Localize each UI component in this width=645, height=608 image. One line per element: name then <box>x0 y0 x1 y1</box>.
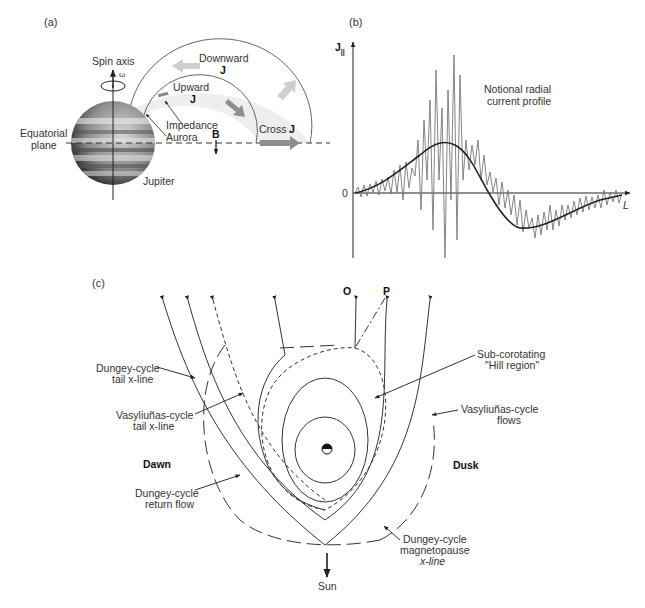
dusk-label: Dusk <box>453 459 479 471</box>
vas-flows-label-2: flows <box>497 414 521 426</box>
upward-label: Upward <box>173 81 209 93</box>
chart-title-line1: Notional radial <box>484 83 551 95</box>
x-axis-label: L <box>623 199 629 211</box>
panel-b: (b) J|| 0 L Notional radial current prof… <box>335 16 630 258</box>
dusk-open-field-line-2 <box>325 300 387 520</box>
o-field-line <box>355 300 356 348</box>
y-axis-label: J|| <box>335 41 345 56</box>
chart-title-line2: current profile <box>487 95 551 107</box>
downward-label: Downward <box>199 52 249 64</box>
cross-label: Cross <box>259 123 286 135</box>
p-label: P <box>383 285 390 297</box>
figure: (a) Spin axis ω Equatorial <box>0 0 645 608</box>
b-field-label: B <box>212 128 220 140</box>
dawn-open-field-line-2 <box>188 300 325 520</box>
panel-c-label: (c) <box>92 277 105 289</box>
downward-j-label: J <box>220 64 226 76</box>
vas-tail-pointer <box>195 393 243 414</box>
downward-current-arrow-icon-2 <box>277 80 296 100</box>
jupiter-label: Jupiter <box>143 175 175 187</box>
dungey-tail-label-2: tail x-line <box>112 373 154 385</box>
downward-current-arrow-icon <box>172 59 200 73</box>
zero-label: 0 <box>342 187 348 199</box>
subcorot-label-2: "Hill region" <box>485 359 539 371</box>
omega-label: ω <box>119 70 125 79</box>
o-label: O <box>343 285 351 297</box>
dawn-label: Dawn <box>143 458 171 470</box>
dungey-mp-label-3: x-line <box>419 555 445 567</box>
spin-axis-label: Spin axis <box>92 55 135 67</box>
sun-label: Sun <box>318 580 337 592</box>
magnetopause-dusk <box>380 420 434 540</box>
panel-c: (c) O P Dungey-cy <box>92 277 545 592</box>
subcorot-pointer <box>375 355 475 398</box>
jupiter-icon-shade <box>322 444 332 449</box>
impedance-marker <box>158 92 168 97</box>
panel-a: (a) Spin axis ω Equatorial <box>20 16 330 200</box>
magnetopause-top <box>280 345 340 348</box>
panel-c-labels: O P Dungey-cycle tail x-line Vasyliuñas-… <box>96 285 545 592</box>
impedance-label: Impedance <box>166 119 218 131</box>
cross-j-label: J <box>289 123 295 135</box>
panel-b-label: (b) <box>349 16 362 28</box>
aurora-label: Aurora <box>166 131 198 143</box>
upward-j-label: J <box>190 93 196 105</box>
vas-tail-label-2: tail x-line <box>133 420 175 432</box>
dungey-return-label-2: return flow <box>145 498 194 510</box>
p-field-line <box>355 298 385 348</box>
vas-flows-pointer <box>432 410 458 415</box>
equatorial-label: Equatorial <box>20 127 67 139</box>
current-band <box>130 94 310 143</box>
plane-label: plane <box>31 139 57 151</box>
smooth-current-profile <box>355 142 622 228</box>
panel-a-label: (a) <box>44 16 57 28</box>
dungey-return-pointer <box>195 475 240 490</box>
